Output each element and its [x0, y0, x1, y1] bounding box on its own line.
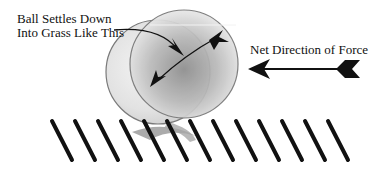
settles-label-line1: Ball Settles Down	[17, 12, 124, 26]
grass-blade	[328, 121, 348, 160]
grass-blades	[52, 121, 348, 160]
grass-blade	[144, 121, 164, 160]
grass-ball-diagram: Ball Settles Down Into Grass Like This N…	[0, 0, 381, 171]
settles-label: Ball Settles Down Into Grass Like This	[17, 12, 124, 40]
grass-blade	[121, 121, 141, 160]
grass-blade	[98, 121, 118, 160]
grass-blade	[259, 121, 279, 160]
settles-label-line2: Into Grass Like This	[17, 26, 124, 40]
net-force-arrow	[248, 59, 360, 79]
grass-blade	[213, 121, 233, 160]
grass-blade	[236, 121, 256, 160]
grass-blade	[305, 121, 325, 160]
grass-blade	[75, 121, 95, 160]
main-ball	[130, 10, 238, 118]
grass-blade	[282, 121, 302, 160]
arrow-fletching-icon	[336, 60, 360, 78]
force-label: Net Direction of Force	[250, 43, 368, 57]
grass-blade	[52, 121, 72, 160]
ball-shadow	[132, 122, 196, 142]
